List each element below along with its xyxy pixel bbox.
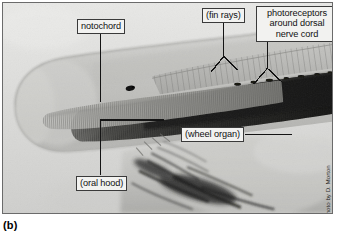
callout-fin-rays: (fin rays)	[202, 8, 245, 23]
photo-credit: Photo by D. Morton	[318, 143, 332, 214]
figure-panel: notochord (fin rays) photoreceptors arou…	[0, 0, 337, 238]
callout-photoreceptors-line2: around dorsal	[270, 18, 325, 28]
callout-oral-hood: (oral hood)	[76, 176, 127, 191]
callout-wheel-organ: (wheel organ)	[181, 127, 244, 142]
callout-notochord: notochord	[77, 19, 125, 34]
callout-photoreceptors-line1: photoreceptors	[267, 8, 327, 18]
callout-photoreceptors-line3: nerve cord	[276, 29, 318, 39]
callout-photoreceptors: photoreceptors around dorsal nerve cord	[256, 6, 333, 42]
photo-credit-text: Photo by D. Morton	[324, 143, 331, 214]
panel-letter: (b)	[3, 219, 18, 231]
photomicrograph-frame: notochord (fin rays) photoreceptors arou…	[2, 2, 333, 214]
